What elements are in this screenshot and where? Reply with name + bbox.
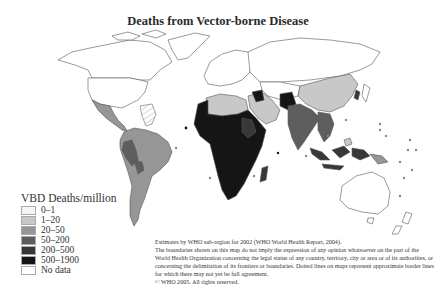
legend-swatch	[21, 206, 36, 215]
legend-label: 1–20	[41, 215, 60, 225]
legend-swatch	[21, 256, 36, 265]
region-south-asia	[288, 104, 320, 150]
region-australia	[340, 172, 390, 214]
copyright: © WHO 2005. All rights reserved.	[155, 278, 435, 286]
region-europe	[204, 50, 252, 86]
legend-label: 50–200	[41, 235, 70, 245]
legend-item: 0–1	[21, 205, 117, 215]
legend-item: 20–50	[21, 225, 117, 235]
legend-label: 0–1	[41, 205, 55, 215]
legend-item: 200–500	[21, 245, 117, 255]
legend-label: 200–500	[41, 245, 74, 255]
legend-swatch	[21, 226, 36, 235]
region-southeast-asia	[318, 112, 334, 142]
legend-label: 500–1900	[41, 255, 79, 265]
legend-item: No data	[21, 265, 117, 275]
legend-item: 500–1900	[21, 255, 117, 265]
legend-label: 20–50	[41, 225, 65, 235]
disclaimer: The boundaries shown on this map do not …	[155, 246, 435, 278]
legend-label: No data	[41, 265, 71, 275]
source-line: Estimates by WHO sub-region for 2002 (WH…	[155, 238, 435, 246]
legend-swatch	[21, 216, 36, 225]
region-greenland	[168, 33, 210, 60]
legend-swatch	[21, 236, 36, 245]
legend: VBD Deaths/million 0–1 1–20 20–50 50–200…	[21, 192, 117, 275]
region-russia	[248, 38, 380, 82]
region-sub-saharan-africa	[194, 100, 266, 200]
source-note: Estimates by WHO sub-region for 2002 (WH…	[155, 238, 435, 287]
legend-item: 50–200	[21, 235, 117, 245]
legend-title: VBD Deaths/million	[21, 192, 117, 204]
legend-item: 1–20	[21, 215, 117, 225]
legend-swatch	[21, 266, 36, 275]
legend-swatch	[21, 246, 36, 255]
region-canada	[58, 40, 172, 80]
